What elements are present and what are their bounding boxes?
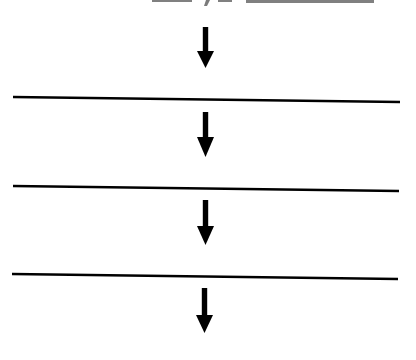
arrow-1-down-arrow-icon [197,27,214,68]
flow-diagram [0,0,416,360]
arrow-3-down-arrow-icon [197,200,214,245]
divider-1 [13,97,400,102]
arrow-4-down-arrow-icon [196,288,213,333]
arrow-2-down-arrow-icon [197,112,214,157]
divider-3 [12,274,398,279]
clipped-header-fragment [152,0,374,6]
divider-2 [13,186,399,191]
